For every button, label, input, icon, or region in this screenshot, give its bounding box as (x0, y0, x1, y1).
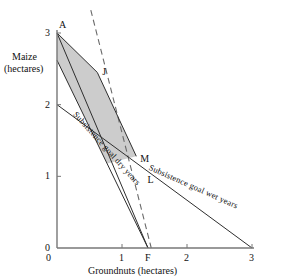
point-label-m: M (140, 154, 149, 164)
chart-figure: 0 1 2 3 0 1 2 3 A J M L F Maize (hectare… (0, 0, 282, 276)
y-axis-title-line2: (hectares) (4, 64, 43, 74)
point-label-f: F (145, 253, 151, 263)
y-tick-label-2: 2 (45, 100, 50, 110)
x-tick-label-2: 2 (184, 253, 189, 263)
y-axis-title-line1: Maize (12, 52, 37, 62)
y-tick-label-3: 3 (45, 28, 50, 38)
x-axis-title: Groundnuts (hectares) (88, 266, 177, 276)
point-label-l: L (147, 175, 153, 185)
point-label-j: J (102, 67, 106, 77)
point-label-a: A (59, 20, 66, 30)
y-tick-label-1: 1 (45, 171, 50, 181)
plot-canvas (0, 0, 282, 276)
x-tick-label-3: 3 (249, 253, 254, 263)
y-tick-label-0: 0 (45, 243, 50, 253)
x-tick-label-1: 1 (119, 253, 124, 263)
x-tick-label-0: 0 (46, 253, 51, 263)
